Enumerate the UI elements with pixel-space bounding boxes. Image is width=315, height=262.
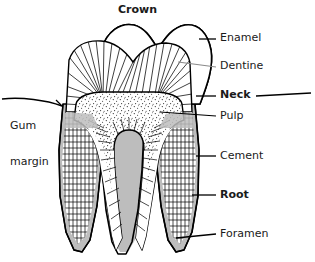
label-dentine: Dentine (220, 60, 263, 72)
label-crown: Crown (118, 4, 157, 16)
label-gum-margin: Gum margin (10, 96, 49, 192)
label-root: Root (220, 189, 249, 201)
label-pulp: Pulp (220, 110, 243, 122)
leader-neck-extension (256, 93, 311, 96)
label-enamel: Enamel (220, 32, 261, 44)
label-cement: Cement (220, 150, 263, 162)
label-foramen: Foramen (220, 228, 268, 240)
label-gum-margin-line2: margin (10, 156, 49, 168)
tooth-anatomy-diagram: Crown Enamel Dentine Neck Pulp Cement Ro… (0, 0, 315, 262)
label-gum-margin-line1: Gum (10, 120, 49, 132)
label-neck: Neck (220, 89, 251, 101)
